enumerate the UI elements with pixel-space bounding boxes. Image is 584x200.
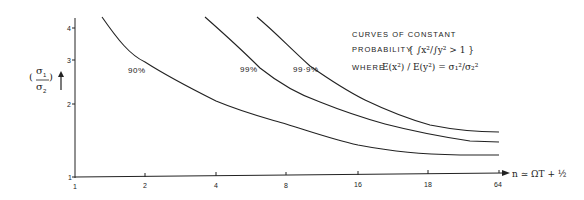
annotation: CURVES OF CONSTANT PROBABILITY { ∫x²/∫y²… <box>352 30 479 72</box>
annotation-line3-math: E(x²) / E(y²) = σ₁²/σ₂² <box>382 62 479 72</box>
x-tick-2: 2 <box>143 182 147 189</box>
y-axis: 4 3 2 1 <box>67 18 75 181</box>
y-tick-1: 1 <box>68 174 72 181</box>
arrow-right-icon <box>502 170 510 176</box>
x-tick-1: 1 <box>73 183 77 190</box>
y-tick-3: 3 <box>67 57 71 64</box>
x-tick-16: 16 <box>354 181 362 188</box>
svg-text:2: 2 <box>43 88 47 94</box>
arrow-up-icon <box>58 71 64 90</box>
chart: 4 3 2 1 ( σ1 σ2 ) 1 2 4 8 16 18 64 n ≃ <box>0 0 584 200</box>
svg-text:σ: σ <box>36 81 43 92</box>
y-axis-label: ( σ1 σ2 ) <box>29 65 64 94</box>
annotation-line2-math: { ∫x²/∫y² > 1 } <box>408 45 474 55</box>
y-tick-2: 2 <box>67 101 71 108</box>
curve-label-90: 90% <box>128 66 146 75</box>
svg-text:σ: σ <box>36 65 43 76</box>
x-axis: 1 2 4 8 16 18 64 n ≃ ΩT + ½ <box>73 169 567 190</box>
svg-text:(: ( <box>29 71 33 82</box>
annotation-line1: CURVES OF CONSTANT <box>352 30 456 39</box>
annotation-line3-prefix: WHERE <box>352 63 385 72</box>
svg-text:1: 1 <box>43 72 47 78</box>
curve-label-99-9: 99·9% <box>293 65 319 74</box>
curve-label-99: 99% <box>240 65 258 74</box>
x-tick-8: 8 <box>284 182 288 189</box>
x-tick-18: 18 <box>424 181 432 188</box>
svg-text:): ) <box>49 71 53 82</box>
x-axis-label: n ≃ ΩT + ½ <box>512 169 567 179</box>
x-tick-64: 64 <box>494 181 502 188</box>
x-tick-4: 4 <box>214 182 218 189</box>
y-tick-4: 4 <box>67 25 71 32</box>
annotation-line2-prefix: PROBABILITY <box>352 45 412 54</box>
